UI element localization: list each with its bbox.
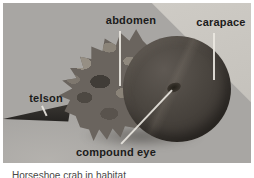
telson-label: telson (22, 92, 70, 104)
carapace-leader-line (213, 33, 215, 80)
abdomen-label: abdomen (97, 14, 165, 26)
compound-eye-label: compound eye (70, 146, 162, 158)
figure-page: abdomen carapace telson compound eye Hor… (0, 0, 254, 178)
carapace-label: carapace (195, 16, 247, 28)
telson-tail-shape (3, 103, 71, 123)
horseshoe-crab-photo: abdomen carapace telson compound eye (3, 3, 251, 163)
figure-caption: Horseshoe crab in habitat (12, 170, 126, 178)
abdomen-leader-line (119, 31, 121, 86)
